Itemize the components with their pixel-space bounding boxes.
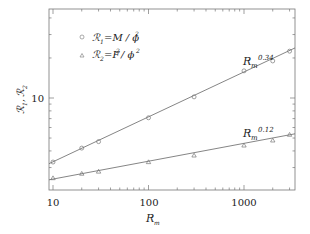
- svg-text:/ ϕ: / ϕ: [120, 49, 135, 60]
- x-ticks: [53, 9, 290, 190]
- svg-text:0.12: 0.12: [258, 126, 274, 134]
- svg-text:0.34: 0.34: [258, 54, 274, 62]
- svg-text:R: R: [242, 55, 251, 68]
- annotation-exponent-034: R m 0.34: [242, 54, 274, 70]
- y-ticks: [49, 18, 295, 168]
- x-tick-label-1000: 1000: [231, 197, 256, 208]
- svg-text:m: m: [154, 219, 160, 226]
- svg-text:m: m: [251, 62, 258, 70]
- svg-text:R: R: [145, 212, 154, 225]
- annotation-exponent-012: R m 0.12: [242, 126, 274, 142]
- fit-lines: [49, 48, 295, 180]
- fit-line-1: [49, 48, 295, 164]
- fit-line-2: [49, 134, 295, 180]
- svg-text:R: R: [242, 127, 251, 140]
- triangle-marker-icon: [271, 138, 275, 142]
- plot-frame: [49, 9, 295, 190]
- x-tick-label-100: 100: [139, 197, 158, 208]
- svg-text:m: m: [251, 134, 258, 142]
- y-axis-label: ℛ 1 , ℛ 2: [15, 85, 28, 114]
- y-tick-label-10: 10: [31, 93, 44, 104]
- legend: ℛ 1 =M / ϕ 2 ℛ 2 =F 2 / ϕ 2: [80, 30, 140, 62]
- legend-item-r2: ℛ 2 =F 2 / ϕ 2: [80, 47, 140, 62]
- svg-text:2: 2: [135, 47, 140, 54]
- legend-item-r1: ℛ 1 =M / ϕ 2: [80, 30, 139, 45]
- svg-text:,: ,: [16, 99, 26, 102]
- x-tick-label-10: 10: [47, 197, 60, 208]
- svg-text:2: 2: [21, 85, 28, 90]
- svg-text:2: 2: [115, 47, 120, 54]
- circle-marker-icon: [80, 35, 84, 39]
- x-axis-label: R m: [145, 212, 160, 226]
- triangle-marker-icon: [80, 54, 84, 58]
- triangle-marker-icon: [192, 153, 196, 157]
- svg-text:2: 2: [134, 30, 139, 37]
- chart: 10 100 1000 10 R m ℛ 1 , ℛ 2 ℛ 1 =M / ϕ …: [0, 0, 310, 234]
